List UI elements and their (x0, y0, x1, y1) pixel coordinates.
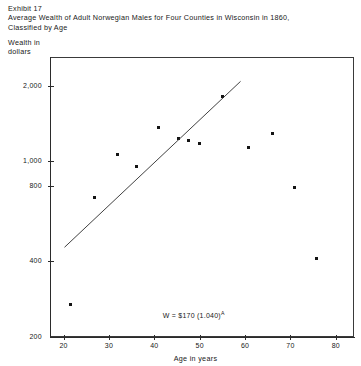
y-tick-label-400: 400 (6, 257, 42, 264)
y-axis-caption-line-1: Wealth in (8, 38, 40, 47)
x-tick-label-70: 70 (280, 342, 300, 349)
x-tick-label-20: 20 (54, 342, 74, 349)
x-tick-label-80: 80 (326, 342, 346, 349)
x-axis-title: Age in years (174, 354, 218, 363)
exhibit-label: Exhibit 17 (8, 4, 356, 13)
trend-line (50, 57, 354, 337)
regression-equation-annotation: W = $170 (1.040)A (163, 310, 225, 319)
y-tick-label-2000: 2,000 (6, 82, 42, 89)
y-tick-label-800: 800 (6, 182, 42, 189)
x-axis-line (50, 337, 355, 338)
figure-title-line-2: Classified by Age (8, 23, 356, 32)
y-axis-caption-line-2: dollars (8, 47, 40, 56)
figure-header: Exhibit 17 Average Wealth of Adult Norwe… (8, 4, 356, 32)
x-tick-label-40: 40 (144, 342, 164, 349)
x-tick-label-30: 30 (99, 342, 119, 349)
x-tick-label-60: 60 (235, 342, 255, 349)
equation-text: W = $170 (1.040) (163, 312, 221, 319)
x-tick-label-50: 50 (190, 342, 210, 349)
figure-title-line-1: Average Wealth of Adult Norwegian Males … (8, 13, 356, 22)
y-tick-label-1000: 1,000 (6, 157, 42, 164)
chart-figure: Exhibit 17 Average Wealth of Adult Norwe… (0, 0, 361, 366)
y-axis-caption: Wealth in dollars (8, 38, 40, 57)
y-tick-label-200: 200 (6, 333, 42, 340)
equation-exponent: A (221, 310, 225, 316)
